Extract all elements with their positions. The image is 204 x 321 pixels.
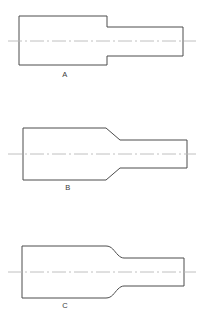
figure-a-label: A xyxy=(62,70,67,79)
technical-drawing-canvas: A B C xyxy=(0,0,204,321)
figure-b-label: B xyxy=(65,183,70,192)
figure-c-label: C xyxy=(62,301,68,310)
